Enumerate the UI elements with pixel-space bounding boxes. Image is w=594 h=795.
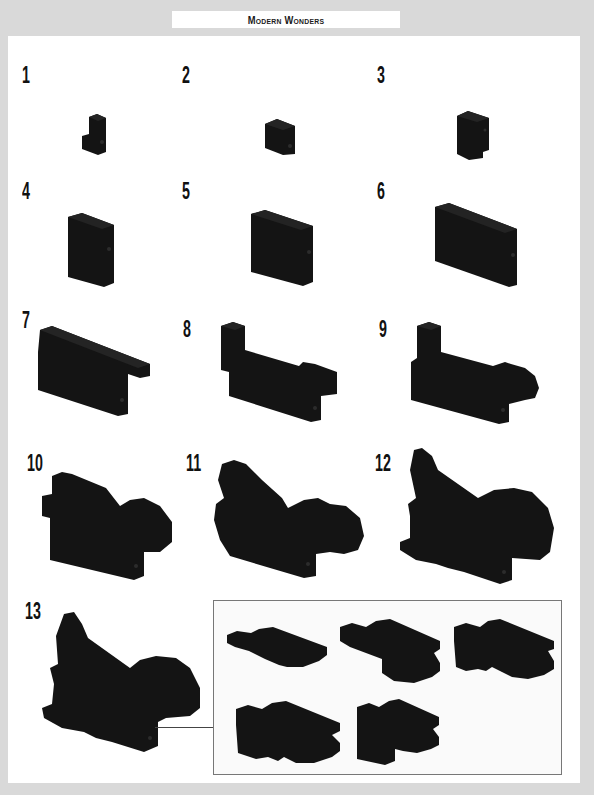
step-13-model bbox=[40, 612, 202, 752]
step-number-11: 11 bbox=[186, 452, 201, 475]
step-number-1: 1 bbox=[22, 64, 30, 87]
step-5-model bbox=[249, 210, 315, 286]
step-7-model bbox=[34, 326, 152, 416]
page-header-bar: Modern Wonders bbox=[172, 11, 400, 28]
step-12-model bbox=[398, 448, 558, 584]
step-3-model bbox=[455, 110, 493, 160]
step-number-2: 2 bbox=[182, 64, 190, 87]
step-number-4: 4 bbox=[22, 180, 30, 203]
step-number-5: 5 bbox=[182, 180, 190, 203]
step-6-model bbox=[433, 203, 519, 287]
inset-model-a bbox=[225, 625, 329, 671]
inset-model-c bbox=[452, 619, 556, 681]
step-number-9: 9 bbox=[379, 318, 387, 341]
step-1-model bbox=[80, 112, 110, 157]
step-number-8: 8 bbox=[183, 318, 191, 341]
inset-model-d bbox=[234, 701, 342, 767]
step-9-model bbox=[407, 322, 539, 424]
inset-model-e bbox=[355, 699, 441, 765]
step-number-13: 13 bbox=[25, 600, 41, 623]
step-11-model bbox=[212, 458, 368, 578]
step-2-model bbox=[263, 118, 299, 156]
step-number-3: 3 bbox=[377, 64, 385, 87]
page-title: Modern Wonders bbox=[248, 14, 324, 26]
sub-assembly-inset bbox=[213, 600, 562, 775]
step-number-12: 12 bbox=[375, 452, 391, 475]
step-number-6: 6 bbox=[377, 180, 385, 203]
callout-connector-line bbox=[155, 727, 213, 728]
inset-model-b bbox=[338, 619, 442, 683]
step-8-model bbox=[217, 322, 339, 422]
step-4-model bbox=[66, 213, 116, 287]
step-number-7: 7 bbox=[22, 309, 30, 332]
step-10-model bbox=[40, 470, 176, 580]
